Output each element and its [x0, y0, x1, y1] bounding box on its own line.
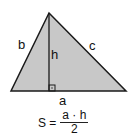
formula-fraction: a · h 2 [60, 109, 88, 136]
triangle-shape [11, 13, 126, 91]
label-base-a: a [59, 94, 66, 107]
label-side-b: b [18, 38, 25, 51]
area-formula: S = a · h 2 [38, 109, 88, 136]
formula-denominator: 2 [71, 123, 78, 136]
formula-lhs: S = [38, 116, 56, 130]
right-angle-dot [51, 87, 52, 88]
label-height-h: h [51, 48, 58, 61]
formula-numerator: a · h [60, 109, 88, 123]
label-side-c: c [89, 39, 96, 52]
